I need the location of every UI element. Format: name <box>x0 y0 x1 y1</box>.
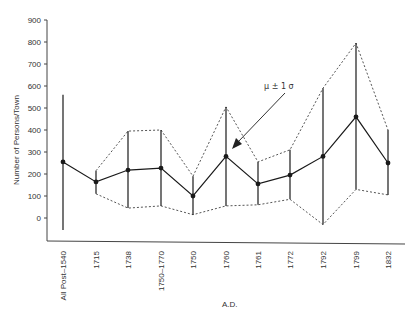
mean-marker <box>321 154 326 159</box>
x-tick-label: 1738 <box>124 250 133 268</box>
mean-marker <box>386 161 391 166</box>
mean-marker <box>61 160 66 165</box>
line-chart: 0100200300400500600700800900 All Post–15… <box>0 0 417 322</box>
mean-marker <box>126 168 131 173</box>
mean-marker <box>191 194 196 199</box>
y-tick-label: 900 <box>28 16 42 25</box>
annotation-text: μ ± 1 σ <box>264 82 294 91</box>
mean-marker <box>224 154 229 159</box>
annotation-arrow-line <box>238 93 285 142</box>
y-tick-label: 600 <box>28 82 42 91</box>
x-tick-label: 1792 <box>319 250 328 268</box>
y-tick-label: 200 <box>28 170 42 179</box>
x-tick-label: 1761 <box>254 250 263 268</box>
mean-marker <box>354 114 359 119</box>
y-tick-label: 300 <box>28 148 42 157</box>
x-axis-title: A.D. <box>222 300 238 309</box>
sd-band-lines <box>96 43 388 225</box>
y-tick-label: 500 <box>28 104 42 113</box>
x-tick-label: 1799 <box>352 250 361 268</box>
y-tick-label: 800 <box>28 38 42 47</box>
x-axis-line <box>47 241 405 244</box>
mean-marker <box>288 173 293 178</box>
mean-marker <box>256 182 261 187</box>
y-axis-ticks: 0100200300400500600700800900 <box>28 16 47 223</box>
x-tick-label: 1772 <box>286 250 295 268</box>
sigma-annotation: μ ± 1 σ <box>232 82 294 149</box>
x-tick-label: 1715 <box>92 250 101 268</box>
mean-marker <box>159 166 164 171</box>
x-tick-label: 1750–1770 <box>157 250 166 291</box>
x-tick-label: 1750 <box>189 250 198 268</box>
y-tick-label: 400 <box>28 126 42 135</box>
y-axis-title: Number of Persons/Town <box>12 95 21 185</box>
x-tick-label: 1832 <box>384 250 393 268</box>
x-axis-ticks: All Post–1540171517381750–17701750176017… <box>59 250 393 300</box>
mean-marker <box>94 180 99 185</box>
x-tick-label: 1760 <box>222 250 231 268</box>
y-tick-label: 100 <box>28 192 42 201</box>
upper-sd-line <box>96 43 388 176</box>
y-tick-label: 700 <box>28 60 42 69</box>
y-tick-label: 0 <box>37 214 42 223</box>
lower-sd-line <box>96 189 388 224</box>
x-tick-label: All Post–1540 <box>59 250 68 300</box>
